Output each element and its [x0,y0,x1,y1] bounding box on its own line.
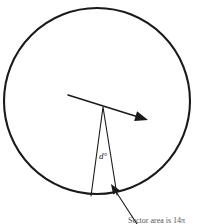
circle-outline-icon [4,8,190,194]
sector-caption: Sector area is 14π [128,217,185,224]
angle-label: d° [99,152,107,161]
radius-arrow-icon [68,95,148,121]
geometry-canvas [0,0,201,224]
geometry-figure: d° Sector area is 14π [0,0,201,224]
